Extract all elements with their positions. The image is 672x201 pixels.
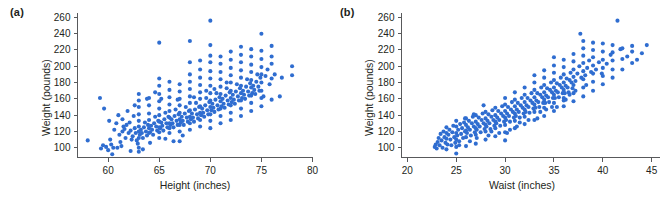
svg-text:20: 20 <box>402 165 414 176</box>
svg-text:75: 75 <box>256 165 268 176</box>
svg-text:200: 200 <box>378 61 395 72</box>
svg-text:160: 160 <box>54 93 71 104</box>
svg-text:40: 40 <box>597 165 609 176</box>
svg-text:240: 240 <box>54 28 71 39</box>
svg-text:45: 45 <box>646 165 658 176</box>
svg-text:65: 65 <box>154 165 166 176</box>
panel-a-ylabel: Weight (pounds) <box>40 59 52 136</box>
svg-text:260: 260 <box>54 12 71 23</box>
svg-text:240: 240 <box>378 28 395 39</box>
svg-text:220: 220 <box>378 44 395 55</box>
svg-text:100: 100 <box>54 142 71 153</box>
panel-a-xlabel: Height (inches) <box>100 179 290 191</box>
svg-text:160: 160 <box>378 93 395 104</box>
figure-container: (a) 100120140160180200220240260606570758… <box>0 0 672 201</box>
svg-text:200: 200 <box>54 61 71 72</box>
panel-a: (a) 100120140160180200220240260606570758… <box>0 0 336 201</box>
svg-text:120: 120 <box>54 126 71 137</box>
svg-text:70: 70 <box>205 165 217 176</box>
svg-text:180: 180 <box>378 77 395 88</box>
svg-text:140: 140 <box>378 110 395 121</box>
svg-text:25: 25 <box>451 165 463 176</box>
svg-text:35: 35 <box>548 165 560 176</box>
svg-text:180: 180 <box>54 77 71 88</box>
panel-b-plot: 100120140160180200220240260202530354045 <box>336 0 672 201</box>
svg-text:100: 100 <box>378 142 395 153</box>
panel-b-xlabel: Waist (inches) <box>422 179 622 191</box>
svg-text:30: 30 <box>500 165 512 176</box>
svg-text:80: 80 <box>307 165 319 176</box>
svg-text:120: 120 <box>378 126 395 137</box>
svg-text:60: 60 <box>103 165 115 176</box>
svg-text:140: 140 <box>54 110 71 121</box>
panel-b: (b) 100120140160180200220240260202530354… <box>336 0 672 201</box>
svg-text:260: 260 <box>378 12 395 23</box>
panel-b-ylabel: Weight (pounds) <box>363 59 375 136</box>
svg-text:220: 220 <box>54 44 71 55</box>
